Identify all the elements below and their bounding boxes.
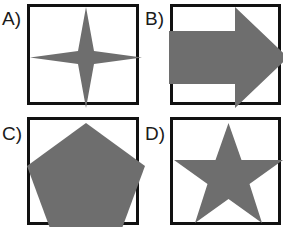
option-label-d: D) xyxy=(145,124,165,143)
pentagon-icon xyxy=(30,120,142,228)
right-arrow-icon xyxy=(173,7,283,108)
shape-quiz-canvas: A) B) C) D) xyxy=(0,0,283,231)
shape-box-a[interactable] xyxy=(27,4,139,105)
five-pointed-star-shape xyxy=(174,123,283,223)
shape-box-d[interactable] xyxy=(170,117,281,225)
shape-box-b[interactable] xyxy=(170,4,281,105)
option-label-b: B) xyxy=(145,9,164,28)
right-arrow-shape xyxy=(169,7,283,108)
pentagon-shape xyxy=(27,123,145,227)
four-pointed-star-shape xyxy=(30,7,142,108)
five-pointed-star-icon xyxy=(173,120,283,228)
four-pointed-star-icon xyxy=(30,7,142,108)
option-label-a: A) xyxy=(2,9,21,28)
shape-box-c[interactable] xyxy=(27,117,139,225)
option-label-c: C) xyxy=(2,124,22,143)
